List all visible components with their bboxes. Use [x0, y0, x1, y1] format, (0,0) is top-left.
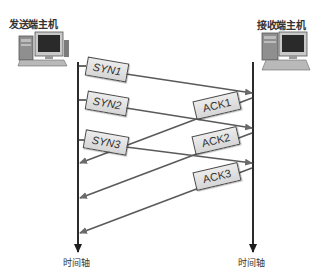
sender-time-axis-label: 时间轴: [63, 256, 90, 269]
diagram-lines: [0, 0, 320, 273]
receiver-time-axis-label: 时间轴: [238, 256, 265, 269]
sender-computer-icon: [18, 32, 69, 66]
sender-host-label: 发送端主机: [9, 16, 58, 31]
receiver-computer-icon: [262, 32, 310, 70]
tcp-transmission-diagram: 发送端主机 接收端主机 SYN1 SYN2 SYN3 ACK1 ACK2 ACK…: [0, 0, 320, 273]
syn3-arrow: [126, 147, 252, 163]
syn1-arrow: [126, 74, 252, 93]
receiver-host-label: 接收端主机: [257, 17, 306, 32]
